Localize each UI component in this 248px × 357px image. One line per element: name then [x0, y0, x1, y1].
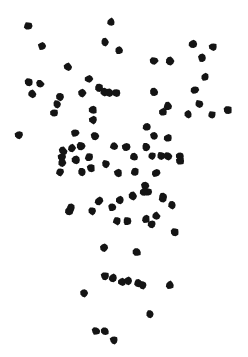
data-point	[124, 217, 132, 225]
plot-background	[0, 0, 248, 357]
scatter-plot-canvas	[0, 0, 248, 357]
scatter-plot	[0, 0, 248, 357]
